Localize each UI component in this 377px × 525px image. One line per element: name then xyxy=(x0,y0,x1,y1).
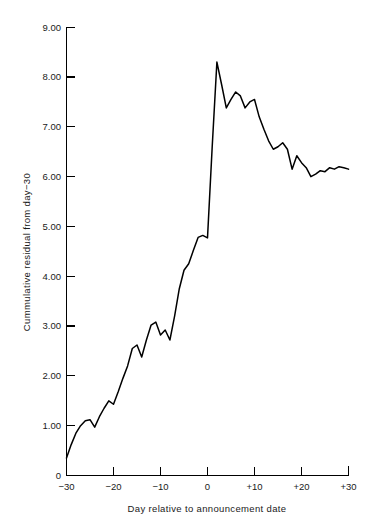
x-tick-label: +20 xyxy=(293,481,309,492)
chart-figure: 9.00 8.00 7.00 6.00 5.00 4.00 3.00 2.00 … xyxy=(0,0,377,525)
y-tick-label: 1.00 xyxy=(43,420,62,431)
y-tick-label: 3.00 xyxy=(43,320,62,331)
line-chart-svg: 9.00 8.00 7.00 6.00 5.00 4.00 3.00 2.00 … xyxy=(0,0,377,525)
y-tick-labels: 9.00 8.00 7.00 6.00 5.00 4.00 3.00 2.00 … xyxy=(43,22,62,481)
x-tick-label: −30 xyxy=(58,481,74,492)
y-axis-title: Cummulative residual from day−30 xyxy=(21,173,32,331)
y-tick-label: 2.00 xyxy=(43,370,62,381)
x-tick-labels: −30 −20 −10 0 +10 +20 +30 xyxy=(58,481,356,492)
y-tick-label: 7.00 xyxy=(43,121,62,132)
y-tick-label: 4.00 xyxy=(43,271,62,282)
y-tick-label: 0 xyxy=(56,470,61,481)
data-series-line xyxy=(67,62,349,458)
y-tick-label: 9.00 xyxy=(43,22,62,33)
y-tick-label: 6.00 xyxy=(43,171,62,182)
x-tick-label: +30 xyxy=(340,481,356,492)
y-tick-label: 8.00 xyxy=(43,71,62,82)
x-tick-label: +10 xyxy=(246,481,262,492)
x-tick-label: 0 xyxy=(205,481,210,492)
x-tick-label: −10 xyxy=(152,481,168,492)
x-tick-marks xyxy=(67,467,349,476)
x-tick-label: −20 xyxy=(105,481,121,492)
x-axis-title: Day relative to announcement date xyxy=(128,503,287,514)
y-tick-marks xyxy=(67,27,75,425)
y-tick-label: 5.00 xyxy=(43,221,62,232)
